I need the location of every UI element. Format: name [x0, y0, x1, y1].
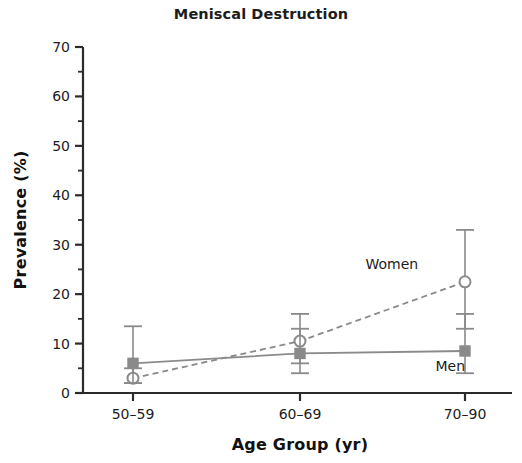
data-point-men-1: [295, 348, 305, 358]
y-tick-label-70: 70: [52, 39, 70, 55]
y-tick-label-20: 20: [52, 286, 70, 302]
y-tick-label-30: 30: [52, 237, 70, 253]
y-tick-label-group: 010203040506070: [52, 39, 70, 401]
y-tick-label-0: 0: [61, 385, 70, 401]
x-tick-label-group: 50–5960–6970–90: [112, 406, 487, 422]
chart-plot-area: 010203040506070 50–5960–6970–90 Prevalen…: [0, 0, 522, 463]
chart-figure: Meniscal Destruction 010203040506070 50–…: [0, 0, 522, 463]
series-annotation-men: Men: [436, 358, 466, 374]
data-point-men-2: [460, 346, 470, 356]
x-axis-title: Age Group (yr): [232, 435, 368, 454]
y-tick-label-10: 10: [52, 336, 70, 352]
series-men: [124, 314, 474, 383]
x-tick-label-1: 60–69: [279, 406, 322, 422]
data-point-women-2: [460, 276, 471, 287]
series-layer: [124, 230, 474, 384]
annotation-layer: WomenMen: [365, 256, 465, 373]
x-tick-group: [133, 393, 465, 401]
y-tick-label-40: 40: [52, 187, 70, 203]
y-tick-label-50: 50: [52, 138, 70, 154]
error-bar-men-0: [124, 326, 142, 383]
y-tick-label-60: 60: [52, 88, 70, 104]
data-point-men-0: [128, 358, 138, 368]
x-tick-label-0: 50–59: [112, 406, 155, 422]
series-annotation-women: Women: [365, 256, 418, 272]
y-axis-title: Prevalence (%): [11, 151, 30, 290]
x-tick-label-2: 70–90: [444, 406, 487, 422]
